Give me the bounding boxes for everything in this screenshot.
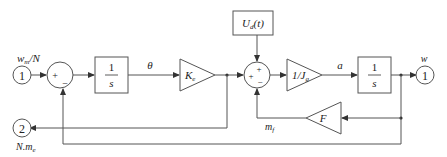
- wire-w-to-sum1: [63, 89, 401, 144]
- mf-label: mf: [265, 121, 275, 134]
- svg-text:−: −: [62, 78, 68, 89]
- output-2-signal-label: N.me: [15, 141, 36, 154]
- input-port-1: 1: [13, 66, 31, 84]
- svg-text:2: 2: [19, 122, 25, 136]
- theta-label: θ: [147, 59, 153, 71]
- wire-mf-sum2: [257, 89, 306, 118]
- svg-text:s: s: [372, 77, 376, 89]
- gain-f-block: F: [306, 102, 341, 134]
- svg-text:+: +: [52, 70, 58, 81]
- gain-jg-block: 1/Jg: [287, 59, 322, 91]
- summing-junction-2: + + −: [244, 62, 270, 88]
- output-1-signal-label: w: [421, 53, 428, 64]
- svg-text:−: −: [257, 77, 262, 87]
- output-port-2: 2: [13, 119, 31, 137]
- integrator-block-1: 1 s: [95, 57, 128, 93]
- summing-junction-1: + −: [47, 62, 73, 89]
- integrator-block-2: 1 s: [358, 57, 391, 93]
- svg-text:+: +: [256, 64, 261, 74]
- svg-text:1: 1: [109, 61, 115, 73]
- output-port-1: 1: [416, 66, 434, 84]
- svg-text:Ud(t): Ud(t): [242, 17, 264, 31]
- svg-text:s: s: [109, 77, 113, 89]
- a-label: a: [337, 59, 343, 71]
- disturbance-block: Ud(t): [233, 11, 273, 35]
- svg-text:1: 1: [372, 61, 378, 73]
- svg-text:+: +: [248, 71, 253, 81]
- svg-text:F: F: [319, 112, 327, 124]
- gain-ke-block: Ke: [180, 59, 215, 91]
- input-signal-label: wm/N: [17, 52, 40, 66]
- svg-text:1: 1: [422, 69, 428, 83]
- block-diagram: 1 wm/N + − 1 s θ Ke 2 N.me Ud(t) + +: [0, 0, 447, 157]
- svg-text:1: 1: [19, 69, 25, 83]
